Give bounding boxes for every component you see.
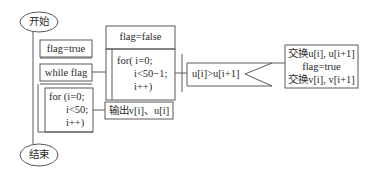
inner-for-line1: for( i=0; xyxy=(117,55,152,67)
flag-false-label: flag=false xyxy=(106,31,175,43)
swap-line3: 交换v[i], v[i+1] xyxy=(285,74,358,86)
output-label: 输出v[i]、u[i] xyxy=(105,105,173,117)
inner-for-line2: i<50−1; xyxy=(134,68,167,80)
output-for-line1: for (i=0; xyxy=(49,91,84,103)
loop-label: while flag xyxy=(40,67,92,79)
output-for-line3: i++) xyxy=(66,117,84,129)
inner-for-line3: i++) xyxy=(134,81,152,93)
swap-line2: flag=true xyxy=(285,61,358,73)
swap-line1: 交换u[i], u[i+1] xyxy=(285,48,358,60)
output-for-line2: i<50; xyxy=(66,104,88,116)
end-label: 结束 xyxy=(20,149,58,161)
init-label: flag=true xyxy=(40,43,92,55)
start-label: 开始 xyxy=(20,16,58,28)
condition-label: u[i]>u[i+1] xyxy=(192,68,239,80)
